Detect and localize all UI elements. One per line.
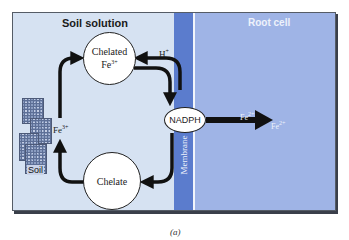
fe-text: Fe [101, 60, 111, 71]
arrow-nadph-to-chelate [146, 133, 172, 182]
nadph-node: NADPH [164, 107, 206, 133]
arrow-hplus-to-chelated [140, 58, 180, 90]
arrow-fe3-to-chelated [60, 58, 78, 118]
iron-uptake-diagram: Soil solution Root cell Membrane Soil Ch… [0, 0, 349, 240]
h-charge: + [166, 48, 169, 54]
fe2-charge: 2+ [279, 120, 285, 126]
arrow-chelate-to-fe3 [60, 145, 84, 182]
chelated-label: Chelated [92, 46, 128, 57]
fe2-text: Fe [271, 122, 279, 131]
fe2-text: Fe [240, 113, 248, 122]
fe3-label: Fe3+ [53, 124, 68, 135]
chelate-node: Chelate [83, 152, 141, 210]
h-plus-label: H+ [159, 48, 169, 59]
fe2-charge: 2+ [248, 111, 254, 117]
chelated-fe3-node: Chelated Fe3+ [83, 32, 136, 85]
fe3-text: Fe [53, 125, 62, 135]
fe2-label-upper: Fe2+ [240, 111, 254, 122]
fe-charge: 3+ [111, 59, 117, 65]
arrow-chelated-to-nadph [134, 68, 170, 100]
fe2-label-lower: Fe2+ [271, 120, 285, 131]
chelated-fe-label: Fe3+ [92, 57, 128, 70]
fe3-charge: 3+ [62, 124, 68, 130]
figure-caption: (a) [170, 227, 181, 237]
